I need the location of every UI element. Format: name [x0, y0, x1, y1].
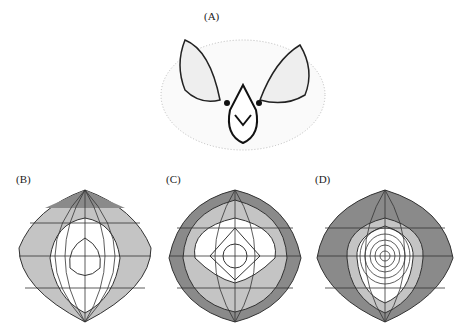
- panel-label-a: (A): [204, 10, 219, 22]
- contour-map-d: [315, 188, 455, 326]
- bat-face-illustration: [155, 25, 330, 155]
- panel-label-b: (B): [16, 173, 31, 185]
- panel-label-c: (C): [166, 173, 181, 185]
- contour-map-c: [165, 188, 305, 326]
- contour-map-b: [15, 188, 155, 326]
- panel-label-d: (D): [315, 173, 330, 185]
